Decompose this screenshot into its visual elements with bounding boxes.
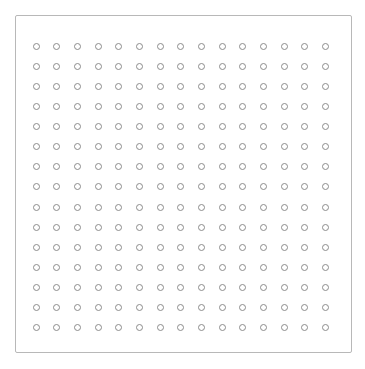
grid-cell[interactable] — [295, 36, 316, 56]
circle-outline-icon[interactable] — [281, 264, 288, 271]
circle-outline-icon[interactable] — [157, 103, 164, 110]
circle-outline-icon[interactable] — [33, 204, 40, 211]
grid-cell[interactable] — [191, 56, 212, 76]
circle-outline-icon[interactable] — [157, 304, 164, 311]
circle-outline-icon[interactable] — [95, 63, 102, 70]
grid-cell[interactable] — [109, 117, 130, 137]
circle-outline-icon[interactable] — [74, 224, 81, 231]
dot-grid-panel[interactable] — [15, 15, 352, 353]
grid-cell[interactable] — [129, 318, 150, 338]
circle-outline-icon[interactable] — [239, 163, 246, 170]
grid-cell[interactable] — [109, 217, 130, 237]
grid-cell[interactable] — [150, 117, 171, 137]
circle-outline-icon[interactable] — [239, 224, 246, 231]
grid-cell[interactable] — [212, 117, 233, 137]
circle-outline-icon[interactable] — [260, 183, 267, 190]
grid-cell[interactable] — [26, 318, 47, 338]
grid-cell[interactable] — [295, 56, 316, 76]
grid-cell[interactable] — [171, 217, 192, 237]
dot-grid[interactable] — [16, 16, 351, 352]
circle-outline-icon[interactable] — [115, 244, 122, 251]
circle-outline-icon[interactable] — [239, 43, 246, 50]
circle-outline-icon[interactable] — [260, 63, 267, 70]
circle-outline-icon[interactable] — [281, 324, 288, 331]
circle-outline-icon[interactable] — [115, 43, 122, 50]
circle-outline-icon[interactable] — [74, 324, 81, 331]
grid-cell[interactable] — [274, 257, 295, 277]
circle-outline-icon[interactable] — [301, 43, 308, 50]
circle-outline-icon[interactable] — [198, 43, 205, 50]
grid-cell[interactable] — [88, 117, 109, 137]
circle-outline-icon[interactable] — [95, 123, 102, 130]
grid-cell[interactable] — [47, 56, 68, 76]
circle-outline-icon[interactable] — [198, 244, 205, 251]
circle-outline-icon[interactable] — [115, 183, 122, 190]
circle-outline-icon[interactable] — [177, 264, 184, 271]
circle-outline-icon[interactable] — [322, 183, 329, 190]
grid-cell[interactable] — [109, 177, 130, 197]
grid-cell[interactable] — [88, 137, 109, 157]
grid-cell[interactable] — [191, 278, 212, 298]
circle-outline-icon[interactable] — [177, 324, 184, 331]
circle-outline-icon[interactable] — [322, 63, 329, 70]
grid-cell[interactable] — [47, 36, 68, 56]
grid-cell[interactable] — [295, 76, 316, 96]
grid-cell[interactable] — [26, 137, 47, 157]
circle-outline-icon[interactable] — [301, 183, 308, 190]
grid-cell[interactable] — [150, 177, 171, 197]
grid-cell[interactable] — [253, 298, 274, 318]
grid-cell[interactable] — [47, 177, 68, 197]
grid-cell[interactable] — [253, 117, 274, 137]
circle-outline-icon[interactable] — [157, 324, 164, 331]
circle-outline-icon[interactable] — [177, 123, 184, 130]
grid-cell[interactable] — [150, 217, 171, 237]
grid-cell[interactable] — [274, 298, 295, 318]
circle-outline-icon[interactable] — [219, 103, 226, 110]
grid-cell[interactable] — [191, 96, 212, 116]
grid-cell[interactable] — [191, 217, 212, 237]
circle-outline-icon[interactable] — [239, 324, 246, 331]
grid-cell[interactable] — [295, 177, 316, 197]
grid-cell[interactable] — [109, 278, 130, 298]
grid-cell[interactable] — [233, 257, 254, 277]
circle-outline-icon[interactable] — [260, 264, 267, 271]
grid-cell[interactable] — [88, 36, 109, 56]
circle-outline-icon[interactable] — [239, 284, 246, 291]
circle-outline-icon[interactable] — [157, 224, 164, 231]
grid-cell[interactable] — [315, 197, 336, 217]
grid-cell[interactable] — [315, 36, 336, 56]
circle-outline-icon[interactable] — [115, 324, 122, 331]
grid-cell[interactable] — [67, 237, 88, 257]
circle-outline-icon[interactable] — [115, 304, 122, 311]
grid-cell[interactable] — [26, 56, 47, 76]
circle-outline-icon[interactable] — [219, 304, 226, 311]
circle-outline-icon[interactable] — [322, 143, 329, 150]
grid-cell[interactable] — [150, 96, 171, 116]
circle-outline-icon[interactable] — [33, 103, 40, 110]
circle-outline-icon[interactable] — [260, 244, 267, 251]
grid-cell[interactable] — [129, 298, 150, 318]
grid-cell[interactable] — [171, 318, 192, 338]
circle-outline-icon[interactable] — [281, 163, 288, 170]
circle-outline-icon[interactable] — [157, 83, 164, 90]
grid-cell[interactable] — [212, 217, 233, 237]
grid-cell[interactable] — [109, 137, 130, 157]
grid-cell[interactable] — [295, 117, 316, 137]
circle-outline-icon[interactable] — [53, 183, 60, 190]
grid-cell[interactable] — [274, 237, 295, 257]
circle-outline-icon[interactable] — [115, 224, 122, 231]
circle-outline-icon[interactable] — [136, 224, 143, 231]
circle-outline-icon[interactable] — [281, 103, 288, 110]
circle-outline-icon[interactable] — [53, 163, 60, 170]
circle-outline-icon[interactable] — [301, 163, 308, 170]
grid-cell[interactable] — [26, 36, 47, 56]
circle-outline-icon[interactable] — [281, 224, 288, 231]
grid-cell[interactable] — [274, 318, 295, 338]
circle-outline-icon[interactable] — [157, 244, 164, 251]
grid-cell[interactable] — [253, 197, 274, 217]
grid-cell[interactable] — [150, 237, 171, 257]
circle-outline-icon[interactable] — [157, 264, 164, 271]
grid-cell[interactable] — [233, 197, 254, 217]
grid-cell[interactable] — [212, 298, 233, 318]
grid-cell[interactable] — [150, 318, 171, 338]
